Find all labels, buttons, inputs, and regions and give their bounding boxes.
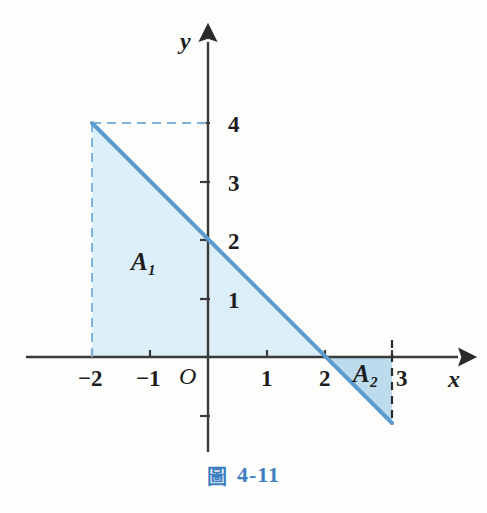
region-label-a1: A₁ [131, 248, 156, 276]
origin-label: O [179, 363, 196, 390]
x-tick-label-1: 1 [261, 366, 273, 392]
figure-caption: 圖4-11 [0, 462, 487, 488]
figure-page: −2 −1 1 2 3 1 2 3 4 O y x A₁ A₂ 圖4-11 [0, 0, 487, 513]
y-tick-label-4: 4 [228, 112, 240, 138]
y-axis-label: y [180, 28, 191, 55]
x-tick-label--1: −1 [136, 366, 161, 392]
y-tick-label-1: 1 [228, 288, 240, 314]
x-tick-label-2: 2 [319, 366, 331, 392]
x-axis-label: x [448, 366, 460, 393]
x-tick-label--2: −2 [78, 366, 103, 392]
caption-mark-icon: 圖 [207, 467, 228, 487]
y-tick-label-3: 3 [228, 171, 240, 197]
caption-text: 4-11 [237, 462, 280, 487]
x-tick-label-3: 3 [396, 366, 408, 392]
region-label-a2: A₂ [353, 360, 378, 388]
coordinate-plane-figure [0, 0, 487, 513]
y-tick-label-2: 2 [228, 229, 240, 255]
